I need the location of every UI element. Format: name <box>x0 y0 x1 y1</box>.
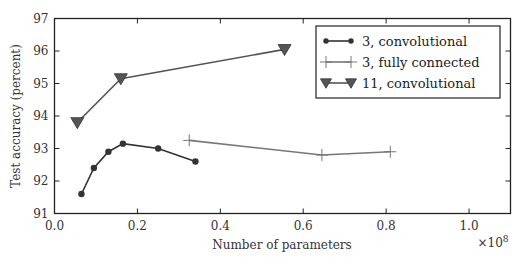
legend-label: 11, convolutional <box>362 76 475 91</box>
y-tick-label: 94 <box>33 109 49 123</box>
series-line <box>77 49 284 122</box>
circle-marker <box>348 38 353 43</box>
chart: 0.00.20.40.60.81.0 91929394959697 Number… <box>0 0 523 265</box>
triangle-down-marker <box>71 118 84 129</box>
legend-label: 3, convolutional <box>362 34 467 49</box>
circle-marker <box>78 191 84 197</box>
legend: 3, convolutional3, fully connected11, co… <box>316 26 500 98</box>
series-1 <box>183 134 396 161</box>
circle-marker <box>192 158 198 164</box>
series-0 <box>78 140 198 197</box>
x-multiplier-label: ×108 <box>477 234 508 250</box>
x-tick-label: 1.0 <box>459 219 478 233</box>
y-tick-label: 97 <box>33 12 48 26</box>
legend-label: 3, fully connected <box>362 55 480 70</box>
circle-marker <box>91 165 97 171</box>
series-line <box>189 140 390 155</box>
y-axis-label: Test accuracy (percent) <box>9 44 23 188</box>
y-tick-label: 95 <box>33 77 48 91</box>
circle-marker <box>155 145 161 151</box>
x-tick-label: 0.2 <box>128 219 147 233</box>
y-tick-label: 91 <box>33 207 48 221</box>
circle-marker <box>120 140 126 146</box>
series-line <box>81 144 195 194</box>
x-tick-label: 0.4 <box>211 219 230 233</box>
circle-marker <box>105 149 111 155</box>
y-tick-label: 96 <box>33 44 48 58</box>
y-tick-label: 92 <box>33 174 48 188</box>
circle-marker <box>323 38 328 43</box>
x-axis-label: Number of parameters <box>212 238 351 252</box>
x-tick-label: 0.8 <box>377 219 396 233</box>
series-2 <box>71 45 291 129</box>
x-tick-label: 0.0 <box>45 219 64 233</box>
x-tick-label: 0.6 <box>294 219 313 233</box>
y-tick-label: 93 <box>33 142 48 156</box>
